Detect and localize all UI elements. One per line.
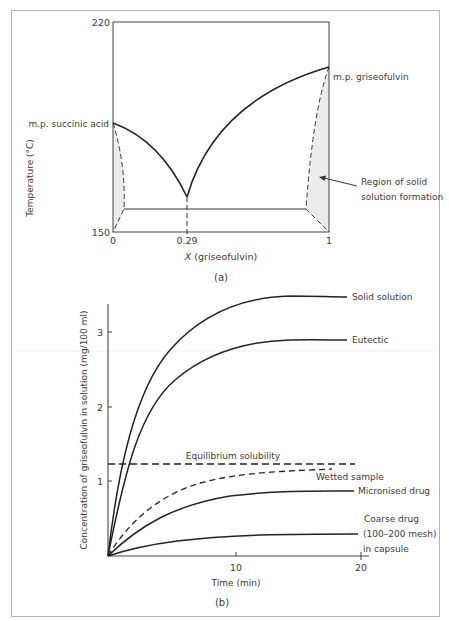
solid-solution-region-right (306, 67, 329, 232)
x-tick-10: 10 (230, 562, 242, 573)
panel-label-b: (b) (215, 597, 229, 608)
x-axis-label-b: Time (min) (211, 578, 261, 588)
y-tick-150: 150 (92, 227, 110, 238)
curve-wetted-sample (108, 469, 332, 556)
label-solid-solution: Solid solution (352, 292, 412, 302)
plot-area-a (113, 22, 329, 232)
annotation-mp-succinic: m.p. succinic acid (28, 119, 109, 129)
x-tick-0: 0 (110, 235, 116, 246)
panel-a-phase-diagram: 220 150 0 0.29 1 X (griseofulvin) Temper… (25, 17, 443, 283)
figure: 220 150 0 0.29 1 X (griseofulvin) Temper… (0, 0, 449, 621)
y-axis-label-a: Temperature (°C) (25, 139, 35, 218)
panel-b-dissolution-plot: 3 2 1 10 20 Time (min) Concentration of … (79, 292, 436, 608)
panel-label-a: (a) (214, 272, 228, 283)
x-tick-1: 1 (326, 235, 332, 246)
x-axis-label-a: X (griseofulvin) (184, 251, 257, 262)
annotation-region-line2: solution formation (361, 192, 443, 202)
label-coarse-drug-line1: Coarse drug (364, 514, 419, 524)
y-axis-label-b: Concentration of griseofulvin in solutio… (79, 311, 89, 550)
figure-frame (12, 11, 440, 617)
annotation-region-line1: Region of solid (361, 177, 427, 187)
liquidus-griseofulvin-curve (187, 67, 329, 197)
curve-coarse-drug (108, 534, 358, 556)
curve-eutectic (108, 340, 347, 556)
x-tick-20: 20 (355, 562, 367, 573)
label-wetted-sample: Wetted sample (316, 472, 384, 482)
label-equilibrium-solubility: Equilibrium solubility (186, 451, 281, 461)
annotation-mp-griseofulvin: m.p. griseofulvin (333, 72, 409, 82)
label-coarse-drug-line3: in capsule (363, 544, 409, 554)
label-coarse-drug-line2: (100–200 mesh) (363, 529, 436, 539)
label-micronised-drug: Micronised drug (358, 486, 430, 496)
y-tick-3: 3 (97, 327, 103, 338)
label-eutectic: Eutectic (352, 335, 388, 345)
y-tick-2: 2 (97, 402, 103, 413)
y-tick-1: 1 (97, 476, 103, 487)
x-tick-029: 0.29 (176, 235, 197, 246)
solid-solution-region-left (113, 123, 124, 232)
x-axis-label-rest: (griseofulvin) (191, 251, 257, 262)
y-tick-220: 220 (92, 17, 110, 28)
